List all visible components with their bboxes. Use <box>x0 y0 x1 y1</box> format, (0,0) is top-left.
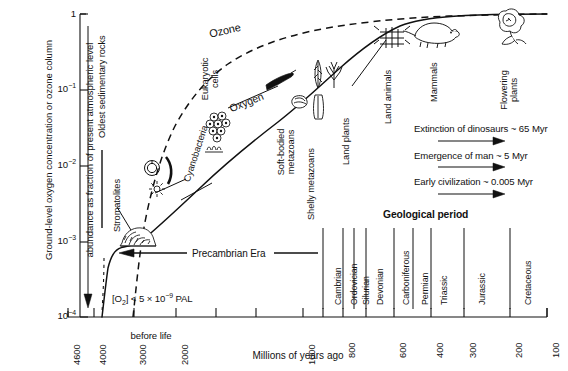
o2-note: [O2] < 5 × 10−9 PAL before life <box>112 268 193 368</box>
x-tick-label-4600: 4600 <box>72 344 82 365</box>
geological-period-heading: Geological period <box>383 209 468 221</box>
label-soft-bodied-metazoans: Soft-bodied metazoans <box>276 114 297 190</box>
y-tick-label-1: 1 <box>44 8 76 19</box>
period-label-cretaceous: Cretaceous <box>524 261 534 305</box>
shelly-metazoan-icon <box>292 96 307 108</box>
label-flowering-plants: Flowering plants <box>499 54 520 126</box>
label-flowering-plants-text: Flowering plants <box>499 70 519 109</box>
land-plant-stalk-icon <box>314 95 324 119</box>
eukaryotic-leader-line <box>181 183 212 200</box>
prokaryote-cell-icon <box>145 161 160 176</box>
label-stromatolites: Stromatolites <box>112 179 122 232</box>
x-tick-label-4000: 4000 <box>98 344 108 365</box>
o2-note-pal: PAL <box>173 293 193 304</box>
period-label-cambrian: Cambrian <box>334 267 344 305</box>
branching-plant-icon <box>326 62 342 88</box>
y-tick-label-10e-3: 10−3 <box>38 235 76 246</box>
radiolarian-icon <box>149 181 165 197</box>
o2-note-bracket: [O <box>112 293 122 304</box>
x-tick-label-200: 200 <box>514 342 524 358</box>
period-label-silurian: Silurian <box>362 276 372 305</box>
y-axis-title-line2: abundance as fraction of present atmosph… <box>83 0 97 300</box>
microfossil-glyphs-icon <box>205 146 223 152</box>
o2-note-inequality: ] < 5 × 10 <box>126 293 166 304</box>
x-axis-title: Millions of years ago <box>198 350 398 361</box>
stromatolite-icon <box>120 228 156 246</box>
label-eukaryotic-cells: Eukaryotic cells <box>200 46 221 112</box>
x-tick-label-400: 400 <box>435 342 445 358</box>
period-label-jurassic: Jurassic <box>478 273 488 305</box>
period-label-carboniferous: Carboniferous <box>402 251 412 305</box>
o2-note-exponent: −9 <box>165 292 173 299</box>
x-tick-label-600: 600 <box>398 342 408 358</box>
label-land-plants: Land plants <box>341 118 351 165</box>
land-plant-frond-icon <box>314 60 322 88</box>
soft-bodied-metazoan-icon <box>266 70 296 90</box>
period-label-triassic: Triassic <box>440 276 450 305</box>
label-eukaryotic-cells-text: Eukaryotic cells <box>200 58 220 100</box>
x-tick-label-100: 100 <box>551 342 561 358</box>
y-tick-label-10e-1: 10−1 <box>38 83 76 94</box>
event-arrows <box>438 137 505 198</box>
annotation-early-civilization: Early civilization ~ 0.005 Myr <box>414 177 533 188</box>
label-mammals: Mammals <box>429 62 439 102</box>
label-oldest-sedimentary-rocks: Oldest sedimentary rocks <box>97 36 107 139</box>
y-axis-title-line1: Ground-level oxygen concentration or ozo… <box>42 0 56 300</box>
period-label-permian: Permian <box>421 273 431 305</box>
label-land-animals: Land animals <box>383 70 393 124</box>
label-precambrian-era: Precambrian Era <box>192 248 266 259</box>
y-axis-title: Ground-level oxygen concentration or ozo… <box>14 0 124 300</box>
o2-note-line1: [O2] < 5 × 10−9 PAL <box>112 293 193 305</box>
y-tick-label-10e-4: 10−4 <box>38 310 76 321</box>
annotation-extinction-dinosaurs: Extinction of dinosaurs ~ 65 Myr <box>414 124 548 135</box>
mammal-icon <box>403 23 459 48</box>
o2-note-line2: before life <box>112 330 190 342</box>
bacterial-filament-icon <box>166 157 171 184</box>
period-label-devonian: Devonian <box>376 268 386 305</box>
period-label-ordovician: Ordovician <box>350 264 360 305</box>
label-shelly-metazoans: Shelly metazoans <box>306 148 316 220</box>
y-tick-label-10e-2: 10−2 <box>38 159 76 170</box>
land-animals-leader-line <box>352 40 386 86</box>
label-soft-bodied-metazoans-text: Soft-bodied metazoans <box>276 129 296 175</box>
oxygen-ozone-evolution-figure: Ground-level oxygen concentration or ozo… <box>0 0 568 371</box>
annotation-emergence-of-man: Emergence of man ~ 5 Myr <box>414 151 528 162</box>
x-tick-label-300: 300 <box>468 342 478 358</box>
